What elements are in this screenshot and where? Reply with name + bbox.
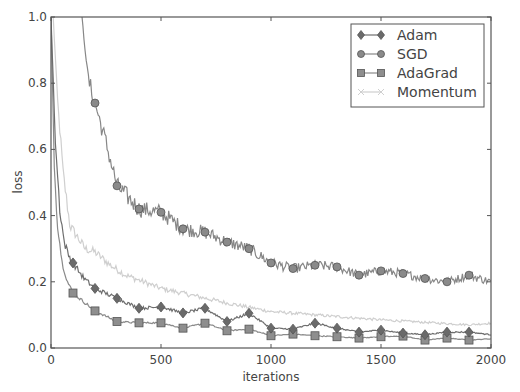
circle-marker: [289, 265, 297, 273]
circle-marker: [135, 205, 143, 213]
square-marker: [135, 319, 143, 327]
circle-marker: [421, 274, 429, 282]
y-tick-label: 0.0: [28, 341, 47, 355]
circle-marker: [179, 225, 187, 233]
square-marker: [113, 318, 121, 326]
circle-marker: [355, 271, 363, 279]
x-tick-label: 1000: [256, 353, 287, 367]
circle-marker: [267, 259, 275, 267]
square-marker: [69, 289, 77, 297]
y-tick-label: 0.8: [28, 76, 47, 90]
diamond-marker: [333, 323, 341, 333]
circle-marker: [157, 208, 165, 216]
square-marker: [333, 333, 341, 341]
circle-marker: [333, 263, 341, 271]
square-marker: [223, 327, 231, 335]
circle-marker: [443, 278, 451, 286]
y-axis-label: loss: [11, 170, 25, 193]
square-marker: [311, 332, 319, 340]
diamond-marker: [311, 318, 319, 328]
legend-label-momentum: Momentum: [397, 84, 477, 100]
diamond-marker: [179, 308, 187, 318]
x-axis-label: iterations: [243, 370, 300, 384]
legend-label-adagrad: AdaGrad: [397, 65, 458, 81]
x-tick-label: 0: [47, 353, 55, 367]
circle-marker: [378, 51, 385, 58]
circle-marker: [113, 182, 121, 190]
x-tick-label: 1500: [366, 353, 397, 367]
circle-marker: [223, 238, 231, 246]
circle-marker: [465, 271, 473, 279]
square-marker: [245, 325, 253, 333]
square-marker: [179, 324, 187, 332]
square-marker: [358, 70, 365, 77]
diamond-marker: [135, 303, 143, 313]
y-tick-label: 0.6: [28, 142, 47, 156]
circle-marker: [91, 99, 99, 107]
legend-label-adam: Adam: [397, 27, 437, 43]
square-marker: [201, 319, 209, 327]
x-tick-label: 500: [150, 353, 173, 367]
circle-marker: [377, 267, 385, 275]
legend: Adam SGD AdaGrad Momentum: [351, 24, 484, 107]
diamond-marker: [223, 317, 231, 327]
square-marker: [91, 307, 99, 315]
square-marker: [378, 70, 385, 77]
circle-marker: [399, 270, 407, 278]
y-tick-label: 0.2: [28, 275, 47, 289]
circle-marker: [311, 261, 319, 269]
loss-chart: 05001000150020000.00.20.40.60.81.0 itera…: [0, 0, 520, 392]
square-marker: [157, 319, 165, 327]
diamond-marker: [465, 327, 473, 337]
circle-marker: [358, 51, 365, 58]
circle-marker: [201, 228, 209, 236]
circle-marker: [245, 245, 253, 253]
diamond-marker: [157, 302, 165, 312]
legend-label-sgd: SGD: [397, 46, 428, 62]
x-tick-label: 2000: [476, 353, 507, 367]
y-tick-label: 0.4: [28, 209, 47, 223]
y-tick-label: 1.0: [28, 10, 47, 24]
